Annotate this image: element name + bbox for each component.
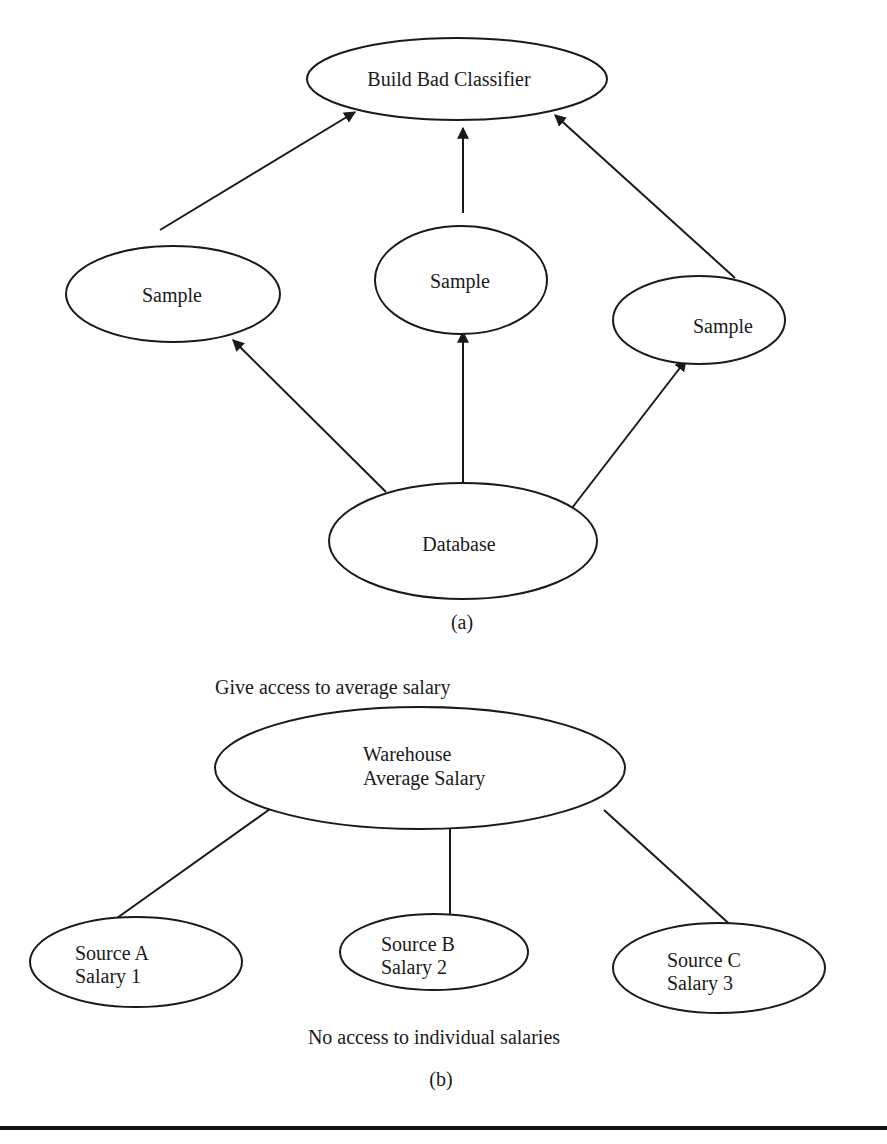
edge-database-to-sample-left <box>233 340 386 492</box>
node-label: Sample <box>430 270 490 293</box>
node-label: Database <box>422 533 495 555</box>
node-build-bad-classifier: Build Bad Classifier <box>307 38 607 120</box>
source-a-line-1: Source A <box>75 942 149 964</box>
caption-a: (a) <box>451 611 473 634</box>
edge-warehouse-to-source-c <box>604 810 736 930</box>
source-c-line-1: Source C <box>667 949 741 971</box>
edge-warehouse-to-source-a <box>117 809 270 918</box>
warehouse-line-2: Average Salary <box>363 767 485 790</box>
node-source-a: Source A Salary 1 <box>30 917 242 1007</box>
annotation-give-access: Give access to average salary <box>215 676 450 699</box>
edge-sample-right-to-classifier <box>555 115 735 278</box>
source-a-line-2: Salary 1 <box>75 965 141 988</box>
edge-sample-left-to-classifier <box>160 112 355 230</box>
diagram-canvas: Build Bad Classifier Sample Sample Sampl… <box>0 0 887 1144</box>
node-label: Sample <box>693 315 753 338</box>
caption-b: (b) <box>429 1068 452 1091</box>
node-sample-center: Sample <box>375 226 547 334</box>
node-label: Sample <box>142 284 202 307</box>
node-label: Build Bad Classifier <box>367 68 531 90</box>
figure-a: Build Bad Classifier Sample Sample Sampl… <box>66 38 785 634</box>
source-c-line-2: Salary 3 <box>667 972 733 995</box>
node-database: Database <box>329 483 597 599</box>
annotation-no-access: No access to individual salaries <box>308 1026 560 1048</box>
source-b-line-1: Source B <box>381 933 455 955</box>
node-warehouse: Warehouse Average Salary <box>215 707 625 829</box>
node-sample-left: Sample <box>66 246 280 342</box>
node-source-c: Source C Salary 3 <box>613 923 825 1013</box>
edge-database-to-sample-right <box>572 360 686 508</box>
warehouse-line-1: Warehouse <box>363 743 451 765</box>
node-source-b: Source B Salary 2 <box>340 914 528 990</box>
node-sample-right: Sample <box>613 276 785 364</box>
figure-b: Give access to average salary Warehouse … <box>30 676 825 1091</box>
source-b-line-2: Salary 2 <box>381 956 447 979</box>
